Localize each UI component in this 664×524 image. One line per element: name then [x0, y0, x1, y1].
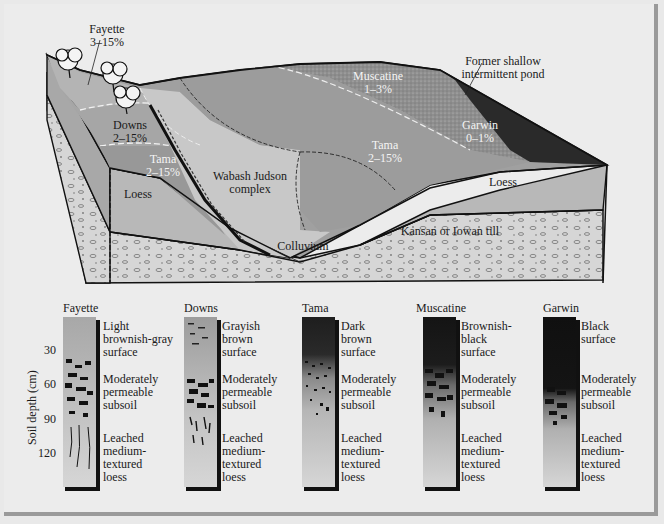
garwin-slope: 0–1%: [455, 132, 505, 145]
profile-column-fayette: [63, 317, 96, 487]
label-colluvium: Colluvium: [273, 240, 333, 253]
tama-surface-desc: Dark brown surface: [341, 320, 376, 359]
label-muscatine: Muscatine 1–3%: [348, 70, 408, 96]
tama-right-slope: 2–15%: [360, 152, 410, 165]
tama-base-desc: Leached medium- textured loess: [341, 432, 384, 484]
muscatine-base-desc: Leached medium- textured loess: [461, 432, 504, 484]
profile-title-tama: Tama: [302, 302, 328, 315]
downs-base-desc: Leached medium- textured loess: [222, 432, 265, 484]
label-garwin: Garwin 0–1%: [455, 119, 505, 145]
garwin-surface-desc: Black surface: [581, 320, 616, 346]
tama-subsoil-desc: Moderately permeable subsoil: [341, 373, 396, 412]
profile-title-muscatine: Muscatine: [416, 302, 466, 315]
downs-subsoil-desc: Moderately permeable subsoil: [222, 373, 277, 412]
tick-30: 30: [30, 344, 56, 356]
profile-column-tama: [302, 317, 335, 487]
label-tama-right: Tama 2–15%: [360, 139, 410, 165]
tick-60: 60: [30, 378, 56, 390]
label-loess-right: Loess: [483, 176, 523, 189]
muscatine-surface-desc: Brownish- black surface: [461, 320, 512, 359]
tama-left-slope: 2–15%: [138, 166, 188, 179]
profile-title-garwin: Garwin: [543, 302, 579, 315]
garwin-base-desc: Leached medium- textured loess: [581, 432, 624, 484]
downs-surface-desc: Grayish brown surface: [222, 320, 260, 359]
label-downs: Downs 2–15%: [105, 119, 155, 145]
label-wabash-judson: Wabash Judson complex: [205, 170, 295, 196]
label-tama-left: Tama 2–15%: [138, 153, 188, 179]
label-loess-left: Loess: [118, 188, 158, 201]
fayette-base-desc: Leached medium- textured loess: [103, 432, 146, 484]
profile-column-garwin: [543, 317, 576, 487]
profile-title-downs: Downs: [184, 302, 218, 315]
pond-line2: intermittent pond: [448, 68, 558, 81]
downs-slope: 2–15%: [105, 132, 155, 145]
wabash-line2: complex: [205, 183, 295, 196]
profile-column-downs: [184, 317, 217, 487]
label-fayette: Fayette 3–15%: [82, 23, 132, 49]
label-former-pond: Former shallow intermittent pond: [448, 55, 558, 81]
fayette-surface-desc: Light brownish-gray surface: [103, 320, 173, 359]
garwin-subsoil-desc: Moderately permeable subsoil: [581, 373, 636, 412]
tick-120: 120: [30, 447, 56, 459]
muscatine-slope: 1–3%: [348, 83, 408, 96]
tick-90: 90: [30, 413, 56, 425]
muscatine-subsoil-desc: Moderately permeable subsoil: [461, 373, 516, 412]
profile-column-muscatine: [423, 317, 456, 487]
fayette-slope: 3–15%: [82, 36, 132, 49]
fayette-subsoil-desc: Moderately permeable subsoil: [103, 373, 158, 412]
profile-title-fayette: Fayette: [63, 302, 98, 315]
label-till: Kansan or Iowan till: [395, 225, 505, 238]
